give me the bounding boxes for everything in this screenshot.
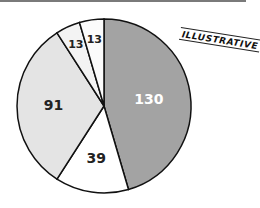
- slice-label: 13: [87, 33, 102, 46]
- slice-label: 13: [68, 38, 83, 51]
- pie-chart: 13039911313: [0, 0, 260, 208]
- slice-label: 39: [87, 150, 106, 166]
- slice-label: 130: [134, 91, 163, 107]
- slice-label: 91: [44, 97, 63, 113]
